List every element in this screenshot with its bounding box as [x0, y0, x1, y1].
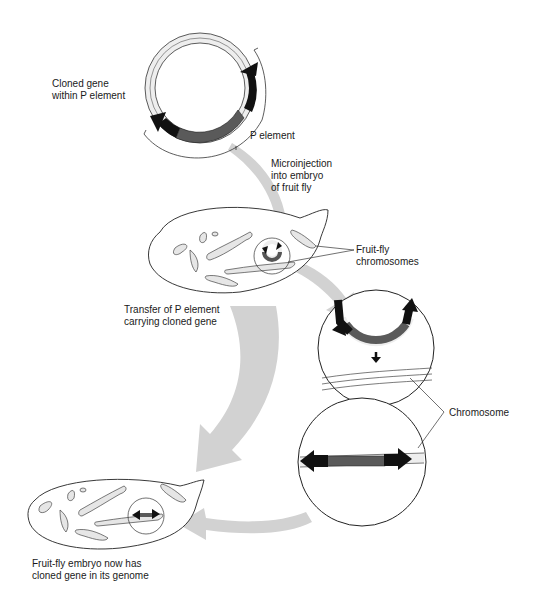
zoom-circle-insertion	[318, 290, 434, 406]
label-transfer: Transfer of P element carrying cloned ge…	[124, 304, 220, 328]
label-microinjection: Microinjection into embryo of fruit fly	[271, 158, 332, 194]
label-chromosome: Chromosome	[449, 407, 509, 419]
label-p-element: P element	[250, 130, 295, 142]
embryo-final	[28, 479, 204, 549]
p-element-plasmid	[144, 33, 266, 158]
zoom-circle-integrated	[298, 398, 426, 526]
label-fruitfly-chromosomes: Fruit-fly chromosomes	[356, 244, 419, 268]
arrow-integration	[178, 508, 312, 540]
arrow-transfer	[196, 306, 279, 472]
label-result: Fruit-fly embryo now has cloned gene in …	[32, 558, 149, 582]
label-cloned-gene: Cloned gene within P element	[52, 78, 125, 102]
